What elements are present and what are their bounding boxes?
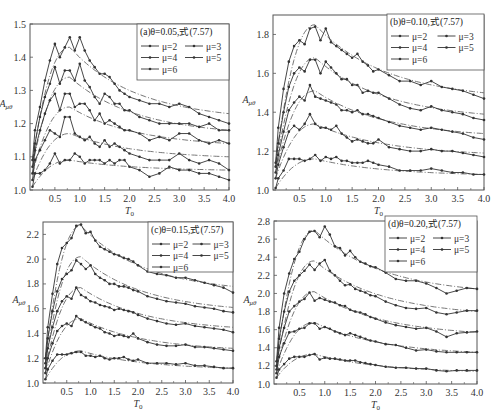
- data-marker: [298, 327, 301, 330]
- data-marker: [175, 323, 178, 326]
- legend-title: (d)θ=0.20,式(7.57): [388, 218, 461, 230]
- data-marker: [361, 161, 364, 164]
- data-marker: [329, 233, 332, 236]
- data-marker: [83, 102, 86, 105]
- data-marker: [359, 311, 362, 314]
- data-marker: [75, 224, 78, 227]
- data-marker: [94, 273, 97, 276]
- data-marker: [80, 223, 83, 226]
- data-marker: [103, 305, 106, 308]
- data-marker: [330, 41, 333, 44]
- data-marker: [165, 300, 168, 303]
- data-marker: [303, 327, 306, 330]
- data-marker: [198, 162, 201, 165]
- data-marker: [466, 309, 469, 312]
- data-marker: [99, 354, 102, 357]
- y-tick-label: 2.0: [258, 288, 271, 299]
- data-marker: [329, 270, 332, 273]
- data-marker: [472, 154, 475, 157]
- legend-entry: μ=2: [410, 234, 425, 244]
- data-marker: [309, 158, 312, 161]
- data-marker: [466, 351, 469, 354]
- y-tick-label: 1.6: [27, 303, 40, 314]
- data-marker: [34, 129, 37, 132]
- x-tick-label: 1.5: [108, 386, 121, 397]
- data-marker: [339, 304, 342, 307]
- data-marker: [128, 152, 131, 155]
- data-marker: [415, 367, 418, 370]
- data-marker: [405, 326, 408, 329]
- y-tick-label: 1.2: [14, 118, 27, 129]
- data-marker: [73, 152, 76, 155]
- data-marker: [51, 293, 54, 296]
- data-marker: [374, 318, 377, 321]
- data-marker: [137, 290, 140, 293]
- data-marker: [118, 254, 121, 257]
- data-marker: [318, 327, 321, 330]
- data-marker: [288, 130, 291, 133]
- data-marker: [323, 298, 326, 301]
- data-marker: [51, 310, 54, 313]
- data-marker: [228, 129, 231, 132]
- data-marker: [93, 119, 96, 122]
- data-marker: [374, 266, 377, 269]
- data-marker: [430, 167, 433, 170]
- data-marker: [384, 300, 387, 303]
- panel-a: 1.01.11.21.31.41.50.51.01.52.02.53.03.54…: [0, 19, 235, 219]
- data-marker: [44, 357, 47, 360]
- data-marker: [405, 366, 408, 369]
- y-tick-label: 1.1: [14, 151, 27, 162]
- data-marker: [34, 172, 37, 175]
- data-marker: [228, 142, 231, 145]
- data-marker: [398, 103, 401, 106]
- data-marker: [445, 370, 448, 373]
- data-marker: [435, 369, 438, 372]
- y-tick-label: 1.8: [27, 278, 40, 289]
- data-marker: [98, 73, 101, 76]
- data-marker: [73, 49, 76, 52]
- legend-entry: μ=3: [214, 240, 229, 250]
- data-marker: [395, 344, 398, 347]
- data-marker: [194, 364, 197, 367]
- data-marker: [146, 295, 149, 298]
- data-marker: [369, 316, 372, 319]
- data-marker: [198, 172, 201, 175]
- data-marker: [335, 125, 338, 128]
- data-marker: [349, 250, 352, 253]
- y-tick-label: 1.0: [258, 379, 271, 390]
- data-marker: [282, 88, 285, 91]
- data-marker: [113, 162, 116, 165]
- data-marker: [288, 158, 291, 161]
- data-marker: [89, 264, 92, 267]
- data-marker: [93, 142, 96, 145]
- data-marker: [293, 356, 296, 359]
- data-marker: [84, 296, 87, 299]
- data-marker: [283, 327, 286, 330]
- data-marker: [168, 159, 171, 162]
- data-marker: [222, 286, 225, 289]
- data-marker: [288, 109, 291, 112]
- data-marker: [93, 96, 96, 99]
- data-marker: [103, 92, 106, 95]
- data-marker: [156, 297, 159, 300]
- data-marker: [288, 272, 291, 275]
- data-marker: [298, 95, 301, 98]
- data-marker: [61, 247, 64, 250]
- legend-entry: μ=2: [162, 42, 177, 52]
- data-marker: [228, 179, 231, 182]
- data-marker: [364, 262, 367, 265]
- data-marker: [283, 310, 286, 313]
- data-marker: [455, 351, 458, 354]
- y-tick-label: 2.0: [27, 254, 40, 265]
- data-marker: [118, 89, 121, 92]
- data-marker: [274, 165, 277, 168]
- data-marker: [80, 351, 83, 354]
- data-marker: [46, 368, 49, 371]
- data-marker: [274, 187, 277, 190]
- data-marker: [93, 159, 96, 162]
- data-marker: [303, 123, 306, 126]
- data-marker: [127, 286, 130, 289]
- data-marker: [44, 112, 47, 115]
- data-marker: [165, 274, 168, 277]
- data-marker: [359, 289, 362, 292]
